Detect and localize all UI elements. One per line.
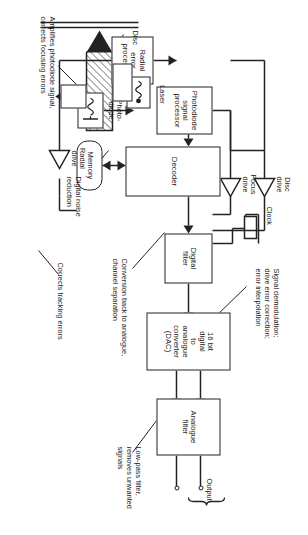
focus-drive-amp-symbol <box>220 178 240 196</box>
block-diagram-canvas: Analogue filter 16 bit digital to analog… <box>0 0 308 535</box>
focus-actuator-box <box>112 63 132 101</box>
figure-stage: Analogue filter 16 bit digital to analog… <box>0 0 308 535</box>
laser-label: Laser <box>157 72 165 116</box>
focus-drive-label: Focus drive <box>239 164 256 204</box>
block-photodiode-signal-processor-label: Photodiode signal processor <box>171 90 197 129</box>
clock-label: Clock <box>264 206 272 240</box>
output-label: Output <box>204 478 212 524</box>
block-decoder-label: Decoder <box>168 156 177 185</box>
annotation-conversion: Conversion back to analogue, channel sep… <box>110 258 128 398</box>
radial-drive-label: Radial drive <box>68 138 85 178</box>
output-terminal-top[interactable] <box>198 485 203 490</box>
annotation-amplifies: Amplifies photodiode signal, corrects fo… <box>38 16 56 148</box>
annotation-demodulation: Signal demodulation; drive error correct… <box>253 268 280 378</box>
block-digital-filter-label: Digital filter <box>180 247 197 269</box>
block-decoder[interactable]: Decoder <box>125 146 220 196</box>
radial-drive-amp-symbol <box>49 150 69 168</box>
radial-actuator-box <box>60 84 86 108</box>
annotation-noise-reduction: Digital noise reduction <box>64 176 82 242</box>
disc-drive-label: Disc drive <box>273 166 290 202</box>
annotation-tracking: Corrects tracking errors <box>55 262 64 366</box>
disc-label: Disc <box>130 30 138 56</box>
block-dac[interactable]: 16 bit digital to analogue converter (DA… <box>146 312 230 370</box>
block-digital-filter[interactable]: Digital filter <box>164 233 212 283</box>
annotation-lowpass: Low-pass filter, removes unwanted signal… <box>115 446 142 534</box>
block-analogue-filter[interactable]: Analogue filter <box>156 398 220 455</box>
output-terminal-bottom[interactable] <box>174 485 179 490</box>
block-analogue-filter-label: Analogue filter <box>180 410 197 443</box>
laser-beam-triangle <box>86 30 112 52</box>
block-dac-label: 16 bit digital to analogue converter (DA… <box>163 325 214 358</box>
